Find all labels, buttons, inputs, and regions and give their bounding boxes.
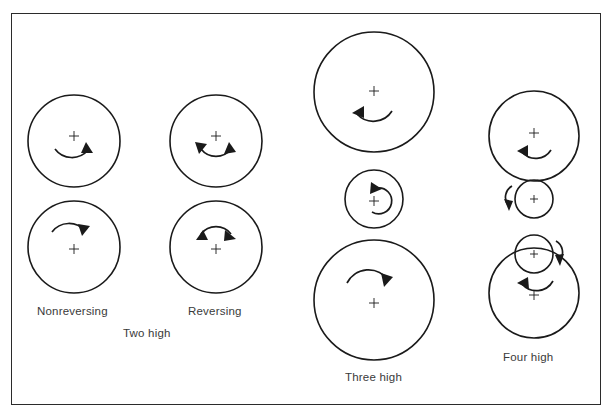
arrow-three-high-top-counterclockwise [352,106,392,121]
center-mark-three-high-bottom [369,298,379,308]
arrow-nonrev-top-clockwise [55,142,93,158]
arrow-three-high-bottom-clockwise [347,270,393,287]
arrow-three-high-middle-counterclockwise [370,182,392,214]
arrow-rev-top-double [195,142,236,156]
caption-four-high: Four high [503,351,553,363]
center-mark-four-high-top-backup [529,128,539,138]
center-mark-rev-bottom [211,244,221,254]
center-mark-three-high-middle [369,196,379,206]
caption-nonreversing: Nonreversing [37,305,108,317]
arrow-nonrev-bottom-clockwise [52,223,90,236]
center-mark-four-high-top-work [530,195,538,203]
arrow-four-high-top-work-left [504,186,513,211]
center-mark-rev-top [211,131,221,141]
caption-two-high: Two high [123,327,171,339]
arrow-four-high-top-backup-counterclockwise [517,145,551,158]
caption-reversing: Reversing [188,305,242,317]
arrow-four-high-bottom-backup-counterclockwise [517,277,553,291]
center-mark-nonrev-top [69,131,79,141]
rolling-mill-figure: Nonreversing Reversing Two high Three hi… [0,0,611,417]
caption-three-high: Three high [345,371,402,383]
center-mark-four-high-bottom-backup [529,290,539,300]
center-mark-four-high-bottom-work [530,250,538,258]
center-mark-three-high-top [369,86,379,96]
center-mark-nonrev-bottom [69,244,79,254]
arrow-rev-bottom-double [196,227,236,241]
